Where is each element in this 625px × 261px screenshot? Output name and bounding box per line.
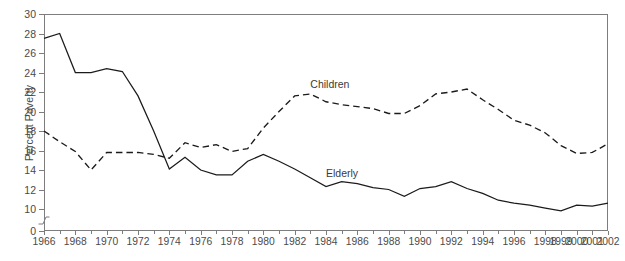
x-tick-1967 xyxy=(60,231,61,234)
y-tick-label: 16 xyxy=(24,145,36,157)
x-tick-2000 xyxy=(577,231,578,235)
x-tick-1978 xyxy=(232,231,233,235)
x-tick-1988 xyxy=(389,231,390,235)
x-tick-label-1996: 1996 xyxy=(503,236,526,247)
x-tick-label-1970: 1970 xyxy=(95,236,118,247)
x-tick-1997 xyxy=(530,231,531,234)
x-tick-label-1990: 1990 xyxy=(409,236,432,247)
y-tick-label: 18 xyxy=(24,125,36,137)
x-tick-label-1994: 1994 xyxy=(471,236,494,247)
x-tick-label-1992: 1992 xyxy=(440,236,463,247)
x-tick-1994 xyxy=(483,231,484,235)
x-tick-1966 xyxy=(44,231,45,235)
axis-break-symbol xyxy=(38,213,50,227)
x-tick-label-1988: 1988 xyxy=(377,236,400,247)
x-tick-label-1986: 1986 xyxy=(346,236,369,247)
y-tick-label: 20 xyxy=(24,106,36,118)
x-tick-label-1980: 1980 xyxy=(252,236,275,247)
x-tick-1970 xyxy=(107,231,108,235)
x-tick-label-1966: 1966 xyxy=(33,236,56,247)
x-tick-1985 xyxy=(342,231,343,234)
elderly-label: Elderly xyxy=(326,167,358,179)
x-tick-1979 xyxy=(248,231,249,234)
x-tick-1987 xyxy=(373,231,374,234)
x-tick-1980 xyxy=(263,231,264,235)
x-tick-label-1968: 1968 xyxy=(64,236,87,247)
children-series-line xyxy=(44,89,608,170)
series-lines xyxy=(44,14,608,231)
x-tick-1991 xyxy=(436,231,437,234)
x-tick-1996 xyxy=(514,231,515,235)
x-tick-2001 xyxy=(592,231,593,235)
x-tick-1971 xyxy=(122,231,123,234)
x-tick-1998 xyxy=(545,231,546,235)
x-tick-1975 xyxy=(185,231,186,234)
poverty-rate-line-chart: Percent Poverty 01012141618202224262830 … xyxy=(0,0,625,261)
x-tick-label-1978: 1978 xyxy=(221,236,244,247)
x-tick-1984 xyxy=(326,231,327,235)
x-tick-1981 xyxy=(279,231,280,234)
x-tick-1973 xyxy=(154,231,155,234)
x-tick-1983 xyxy=(310,231,311,234)
x-tick-1986 xyxy=(357,231,358,235)
x-tick-1993 xyxy=(467,231,468,234)
x-tick-1977 xyxy=(216,231,217,234)
x-tick-label-2002: 2002 xyxy=(597,236,620,247)
y-tick-label: 30 xyxy=(24,8,36,20)
x-tick-1972 xyxy=(138,231,139,235)
x-tick-label-1984: 1984 xyxy=(315,236,338,247)
x-tick-label-1982: 1982 xyxy=(283,236,306,247)
y-tick-label: 26 xyxy=(24,47,36,59)
x-tick-label-1974: 1974 xyxy=(158,236,181,247)
y-tick-label: 10 xyxy=(24,203,36,215)
x-tick-1982 xyxy=(295,231,296,235)
x-tick-label-1972: 1972 xyxy=(127,236,150,247)
y-tick-label: 12 xyxy=(24,184,36,196)
x-tick-1968 xyxy=(75,231,76,235)
x-tick-1992 xyxy=(451,231,452,235)
y-tick-label: 28 xyxy=(24,28,36,40)
x-tick-1990 xyxy=(420,231,421,235)
x-tick-1999 xyxy=(561,231,562,235)
y-tick-label: 22 xyxy=(24,86,36,98)
y-tick-label: 24 xyxy=(24,67,36,79)
y-tick-label: 14 xyxy=(24,164,36,176)
x-tick-label-1976: 1976 xyxy=(189,236,212,247)
plot-area: 01012141618202224262830 1966196819701972… xyxy=(44,14,608,231)
x-tick-1974 xyxy=(169,231,170,235)
x-tick-1995 xyxy=(498,231,499,234)
x-tick-1976 xyxy=(201,231,202,235)
x-tick-1989 xyxy=(404,231,405,234)
x-tick-2002 xyxy=(608,231,609,235)
children-label: Children xyxy=(310,78,349,90)
x-tick-1969 xyxy=(91,231,92,234)
elderly-series-line xyxy=(44,34,608,211)
